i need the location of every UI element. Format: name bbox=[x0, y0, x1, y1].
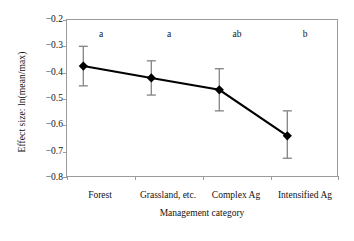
y-tick-label: −0.6 bbox=[33, 119, 63, 129]
y-tick-label: −0.8 bbox=[33, 172, 63, 182]
plot-area: a a ab b bbox=[66, 19, 338, 177]
x-tick-label: Intensified Ag bbox=[262, 189, 348, 201]
y-tick-label: −0.4 bbox=[33, 67, 63, 77]
series-plot bbox=[67, 20, 339, 178]
significance-letter: b bbox=[285, 29, 325, 39]
y-tick-label: −0.5 bbox=[33, 93, 63, 103]
x-axis-tick-labels: Forest Grassland, etc. Complex Ag Intens… bbox=[66, 189, 338, 205]
x-axis-title: Management category bbox=[66, 208, 338, 218]
data-point-marker bbox=[79, 61, 88, 70]
data-point-marker bbox=[147, 73, 156, 82]
y-tick-label: −0.3 bbox=[33, 40, 63, 50]
significance-letter: a bbox=[149, 29, 189, 39]
y-axis-tick-labels: −0.2 −0.3 −0.4 −0.5 −0.6 −0.7 −0.8 bbox=[30, 0, 63, 241]
significance-letter: ab bbox=[217, 29, 257, 39]
chart-figure: Effect size: ln(mean/max) −0.2 −0.3 −0.4… bbox=[0, 0, 354, 241]
y-tick-label: −0.7 bbox=[33, 146, 63, 156]
y-tick-label: −0.2 bbox=[33, 14, 63, 24]
significance-letter: a bbox=[81, 29, 121, 39]
series-line bbox=[83, 66, 287, 136]
y-axis-title: Effect size: ln(mean/max) bbox=[17, 17, 27, 187]
